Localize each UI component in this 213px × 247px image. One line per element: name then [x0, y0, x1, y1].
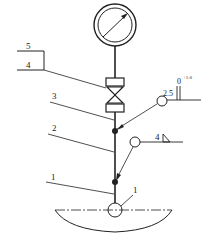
label-1-leader: 1 — [46, 172, 114, 194]
label-2-leader: 2 — [48, 123, 114, 152]
vessel-icon: 1 — [55, 185, 172, 232]
tolerance-base: 0 — [177, 77, 181, 86]
tolerance-value: 2.5 — [163, 89, 173, 98]
label-3: 3 — [52, 91, 57, 101]
tolerance-superscript: +1.0 — [183, 75, 193, 80]
label-5-4-leader: 5 4 — [17, 41, 106, 88]
weld-size: 4 — [155, 132, 160, 142]
label-1: 1 — [51, 172, 56, 182]
pressure-gauge-installation-diagram: 5 4 3 2.5 0 +1.0 2 4 1 — [0, 0, 213, 247]
weld-symbol: 4 — [112, 132, 183, 185]
tolerance-annotation: 2.5 0 +1.0 — [112, 75, 201, 134]
detail-label-1: 1 — [133, 185, 138, 195]
valve-icon — [106, 78, 124, 112]
label-5: 5 — [26, 41, 31, 51]
label-3-leader: 3 — [50, 91, 114, 120]
pressure-gauge-icon — [94, 4, 136, 46]
label-2: 2 — [52, 123, 57, 133]
label-4: 4 — [26, 60, 31, 70]
